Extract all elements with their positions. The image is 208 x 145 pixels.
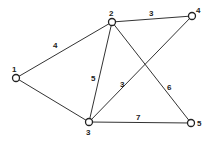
node-label-5: 5 xyxy=(197,119,202,128)
edge-2-5 xyxy=(112,22,191,123)
edge-2-3 xyxy=(89,22,112,122)
nodes-layer xyxy=(13,13,196,127)
edge-1-3 xyxy=(16,78,89,122)
node-label-4: 4 xyxy=(196,6,201,15)
node-5 xyxy=(188,120,195,127)
node-labels-layer: 1 2 3 4 5 xyxy=(12,6,202,137)
node-3 xyxy=(86,119,93,126)
edge-1-2 xyxy=(16,22,112,78)
edge-3-5 xyxy=(89,122,191,123)
edge-label-2-5: 6 xyxy=(167,83,172,92)
node-2 xyxy=(109,19,116,26)
edge-label-2-4: 3 xyxy=(149,9,154,18)
edge-label-2-3: 5 xyxy=(91,74,96,83)
graph-diagram: 4 3 5 3 6 7 1 2 3 4 5 xyxy=(0,0,208,145)
edge-label-1-2: 4 xyxy=(53,41,58,50)
edge-label-3-5: 7 xyxy=(136,113,141,122)
edges-layer xyxy=(16,16,192,123)
node-label-1: 1 xyxy=(12,65,17,74)
edge-label-3-4: 3 xyxy=(120,80,125,89)
node-4 xyxy=(189,13,196,20)
edge-3-4 xyxy=(89,16,192,122)
node-label-2: 2 xyxy=(109,9,114,18)
node-label-3: 3 xyxy=(86,128,91,137)
node-1 xyxy=(13,75,20,82)
